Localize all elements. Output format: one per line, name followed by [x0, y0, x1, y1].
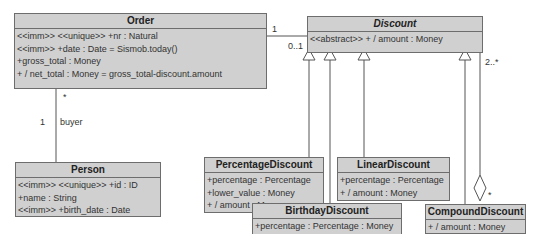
class-name: CompoundDiscount [426, 205, 525, 220]
attribute: + / amount : Money [428, 221, 523, 234]
class-name: BirthdayDiscount [253, 204, 401, 219]
attribute: <<imm>> <<unique>> +id : ID [18, 179, 158, 192]
class-name: LinearDiscount [338, 158, 449, 173]
attribute: +name : String [18, 192, 158, 205]
attribute: +gross_total : Money [17, 55, 264, 68]
class-name: Person [16, 163, 160, 178]
class-order: Order <<imm>> <<unique>> +nr : Natural <… [14, 13, 267, 89]
multiplicity-label: 0..1 [288, 41, 303, 51]
class-discount: Discount <<abstract>> + / amount : Money [307, 16, 483, 53]
class-name: Order [15, 14, 266, 29]
attribute: +lower_value : Money [207, 187, 321, 200]
class-birthday-discount: BirthdayDiscount +percentage : Percentag… [252, 203, 402, 234]
class-name: Discount [308, 17, 482, 32]
attribute: +percentage : Percentage [340, 174, 447, 187]
attribute: <<imm>> <<unique>> +nr : Natural [17, 30, 264, 43]
class-name: PercentageDiscount [205, 158, 323, 173]
attribute: <<imm>> +birth_date : Date [18, 204, 158, 217]
attribute: <<abstract>> + / amount : Money [310, 33, 480, 46]
multiplicity-label: 2..* [485, 57, 499, 67]
attribute: <<imm>> +date : Date = Sismob.today() [17, 43, 264, 56]
multiplicity-label: 1 [40, 117, 45, 127]
attribute: + / amount : Money [340, 187, 447, 200]
attribute: + / net_total : Money = gross_total-disc… [17, 68, 264, 81]
attribute: + / amount : Money [255, 233, 399, 235]
class-compound-discount: CompoundDiscount + / amount : Money [425, 204, 526, 234]
attribute: +percentage : Percentage : Money [255, 220, 399, 233]
aggregation-diamond-icon [474, 175, 486, 201]
multiplicity-label: * [488, 190, 492, 200]
class-person: Person <<imm>> <<unique>> +id : ID +name… [15, 162, 161, 217]
multiplicity-label: 1 [272, 24, 277, 34]
attribute: +percentage : Percentage [207, 174, 321, 187]
multiplicity-label: * [63, 92, 67, 102]
role-label: buyer [60, 117, 83, 127]
class-linear-discount: LinearDiscount +percentage : Percentage … [337, 157, 450, 201]
